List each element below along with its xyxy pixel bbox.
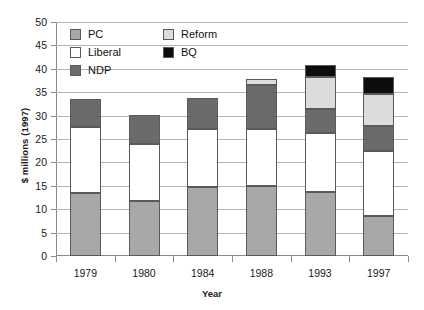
x-tick-label: 1997 [367,267,390,279]
bar-segment-liberal[interactable] [187,129,218,188]
bar-segment-liberal[interactable] [246,129,277,187]
x-tick-mark [173,256,174,262]
x-tick-mark [232,256,233,262]
y-tick-label: 35 [35,86,47,98]
bar-segment-liberal[interactable] [363,151,394,217]
legend-item-reform[interactable]: Reform [163,26,217,42]
bar-segment-bq[interactable] [363,77,394,93]
bar-group[interactable] [305,22,336,256]
bar-segment-ndp[interactable] [129,115,160,144]
y-tick-label: 45 [35,39,47,51]
bar-stack [305,65,336,256]
x-tick-mark [115,256,116,262]
x-tick-label: 1979 [74,267,97,279]
x-tick-label: 1993 [308,267,331,279]
bar-segment-pc[interactable] [305,192,336,256]
x-tick-mark [291,256,292,262]
legend-swatch-icon [163,29,174,40]
x-tick-label: 1988 [250,267,273,279]
bar-group[interactable] [363,22,394,256]
bar-stack [187,98,218,256]
bar-segment-liberal[interactable] [129,144,160,201]
legend-label: BQ [181,47,197,58]
bar-segment-pc[interactable] [246,186,277,256]
bar-segment-ndp[interactable] [363,126,394,150]
legend-label: NDP [88,65,111,76]
y-tick-label: 5 [41,227,47,239]
y-tick-label: 20 [35,156,47,168]
y-tick-label: 30 [35,110,47,122]
bar-stack [70,99,101,256]
x-tick-label: 1984 [191,267,214,279]
bar-segment-ndp[interactable] [305,109,336,133]
x-tick-mark [408,256,409,262]
y-tick-label: 0 [41,250,47,262]
legend-label: Reform [181,29,217,40]
y-tick-label: 10 [35,203,47,215]
bar-stack [363,77,394,256]
legend-label: Liberal [88,47,121,58]
bar-segment-pc[interactable] [129,201,160,256]
y-tick-label: 40 [35,63,47,75]
x-tick-label: 1980 [132,267,155,279]
legend-swatch-icon [163,47,174,58]
bar-group[interactable] [246,22,277,256]
stacked-bar-chart: $ millions (1997) 05101520253035404550 1… [0,0,424,310]
bar-segment-liberal[interactable] [70,127,101,193]
x-axis-title: Year [0,288,424,299]
y-tick-label: 15 [35,180,47,192]
x-tick-mark [349,256,350,262]
bar-segment-reform[interactable] [363,94,394,127]
y-tick-label: 25 [35,133,47,145]
chart-legend: PCReformLiberalBQNDP [70,26,217,78]
x-tick-mark [56,256,57,262]
y-tick-label: 50 [35,16,47,28]
legend-label: PC [88,29,103,40]
legend-swatch-icon [70,29,81,40]
bar-segment-reform[interactable] [246,79,277,85]
legend-item-bq[interactable]: BQ [163,44,217,60]
bar-segment-ndp[interactable] [187,98,218,129]
bar-stack [129,115,160,256]
bar-segment-reform[interactable] [305,77,336,108]
bar-segment-pc[interactable] [187,187,218,256]
bar-segment-ndp[interactable] [246,85,277,129]
bar-segment-pc[interactable] [70,193,101,256]
bar-segment-liberal[interactable] [305,133,336,192]
bar-segment-bq[interactable] [305,65,336,77]
legend-swatch-icon [70,65,81,76]
bar-segment-pc[interactable] [363,216,394,256]
bar-segment-ndp[interactable] [70,99,101,127]
legend-item-ndp[interactable]: NDP [70,62,121,78]
legend-item-pc[interactable]: PC [70,26,121,42]
legend-item-liberal[interactable]: Liberal [70,44,121,60]
bar-stack [246,79,277,256]
y-axis-title: $ millions (1997) [19,76,30,216]
legend-swatch-icon [70,47,81,58]
